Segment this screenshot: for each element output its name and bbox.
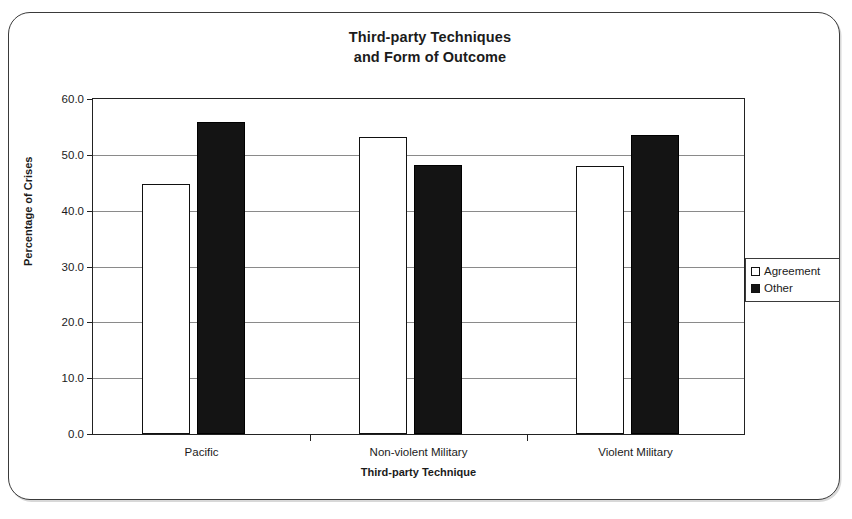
filled-square-icon [751, 284, 760, 293]
legend-item: Other [751, 280, 834, 297]
bar-other-pacific [197, 122, 245, 434]
x-axis-tick [527, 434, 528, 441]
y-axis-tick [87, 434, 93, 435]
plot-area: 0.010.020.030.040.050.060.0PacificNon-vi… [92, 98, 745, 435]
bar-other-violent-military [631, 135, 679, 434]
chart-title-line-1: Third-party Techniques [220, 28, 640, 48]
bar-agreement-violent-military [576, 166, 624, 434]
scanned-page: Third-party Techniques and Form of Outco… [0, 0, 852, 519]
legend-item-label: Other [764, 280, 793, 297]
y-axis-tick-label: 40.0 [62, 205, 84, 217]
y-axis-tick [87, 99, 93, 100]
hollow-square-icon [751, 267, 760, 276]
y-axis-tick [87, 267, 93, 268]
legend-item-label: Agreement [764, 263, 820, 280]
x-axis-category-label: Violent Military [598, 446, 673, 458]
y-axis-tick-label: 0.0 [68, 428, 84, 440]
bar-chart: Third-party Techniques and Form of Outco… [0, 0, 852, 519]
legend-item: Agreement [751, 263, 834, 280]
y-axis-tick [87, 155, 93, 156]
y-axis-tick-label: 20.0 [62, 316, 84, 328]
bar-agreement-pacific [142, 184, 190, 434]
y-axis-tick-label: 50.0 [62, 149, 84, 161]
y-axis-tick-label: 10.0 [62, 372, 84, 384]
x-axis-category-label: Non-violent Military [370, 446, 468, 458]
y-axis-title: Percentage of Crises [22, 157, 34, 266]
chart-title: Third-party Techniques and Form of Outco… [220, 28, 640, 67]
bar-other-non-violent-military [414, 165, 462, 434]
x-axis-tick [310, 434, 311, 441]
chart-title-line-2: and Form of Outcome [220, 48, 640, 68]
x-axis-title: Third-party Technique [92, 466, 745, 478]
bar-agreement-non-violent-military [359, 137, 407, 434]
y-axis-tick [87, 378, 93, 379]
y-axis-tick [87, 322, 93, 323]
y-axis-tick [87, 211, 93, 212]
y-axis-tick-label: 30.0 [62, 261, 84, 273]
x-axis-category-label: Pacific [185, 446, 219, 458]
chart-legend: AgreementOther [745, 258, 840, 302]
y-axis-tick-label: 60.0 [62, 93, 84, 105]
